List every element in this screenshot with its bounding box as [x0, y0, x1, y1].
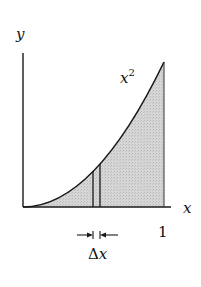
x-end-tick-label: 1 [158, 223, 168, 241]
delta-x-label: Δx [88, 245, 108, 263]
x-axis-label: x [183, 199, 192, 217]
curve-label: x2 [120, 67, 135, 87]
area-under-curve-diagram: y x 1 x2 Δx [0, 0, 201, 287]
y-axis-label: y [15, 25, 25, 43]
delta-x-arrows [77, 231, 118, 239]
